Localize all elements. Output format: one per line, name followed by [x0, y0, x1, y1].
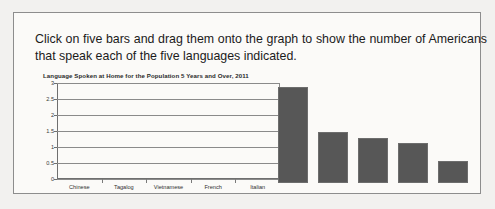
question-panel: Click on five bars and drag them onto th…: [13, 12, 481, 194]
gridline: [57, 83, 280, 84]
y-tick-mark: [54, 147, 57, 148]
plot-area[interactable]: [57, 83, 280, 179]
draggable-bar-2[interactable]: [318, 132, 348, 183]
gridline: [57, 147, 280, 148]
draggable-bar-tray: [278, 83, 488, 183]
y-axis-labels: 00.511.522.53: [38, 83, 54, 179]
gridline: [57, 115, 280, 116]
x-tick-mark: [146, 179, 147, 183]
gridline: [57, 179, 280, 180]
x-tick-mark: [191, 179, 192, 183]
x-axis-labels: ChineseTagalogVietnameseFrenchItalian: [57, 184, 280, 196]
bar-chart: 00.511.522.53 ChineseTagalogVietnameseFr…: [38, 83, 283, 201]
exercise-screen: Click on five bars and drag them onto th…: [0, 0, 495, 209]
x-tick-mark: [102, 179, 103, 183]
x-tick-label-vietnamese: Vietnamese: [154, 184, 183, 190]
chart-title: Language Spoken at Home for the Populati…: [43, 72, 249, 79]
gridline: [57, 163, 280, 164]
y-tick-label: 0.5: [46, 160, 54, 166]
y-tick-label: 2.5: [46, 96, 54, 102]
draggable-bar-5[interactable]: [438, 161, 468, 183]
y-tick-mark: [54, 83, 57, 84]
y-tick-mark: [54, 179, 57, 180]
x-tick-label-italian: Italian: [250, 184, 265, 190]
draggable-bar-4[interactable]: [398, 143, 428, 183]
x-tick-mark: [235, 179, 236, 183]
y-tick-mark: [54, 163, 57, 164]
y-tick-mark: [54, 115, 57, 116]
gridline: [57, 99, 280, 100]
gridline: [57, 131, 280, 132]
x-tick-label-french: French: [204, 184, 221, 190]
instruction-text: Click on five bars and drag them onto th…: [35, 31, 487, 65]
x-tick-label-chinese: Chinese: [69, 184, 90, 190]
y-tick-label: 1.5: [46, 128, 54, 134]
y-tick-mark: [54, 99, 57, 100]
y-tick-mark: [54, 131, 57, 132]
draggable-bar-1[interactable]: [278, 87, 308, 183]
draggable-bar-3[interactable]: [358, 138, 388, 183]
x-tick-label-tagalog: Tagalog: [114, 184, 134, 190]
